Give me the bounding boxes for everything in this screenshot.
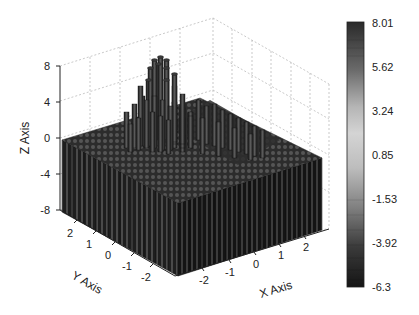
z-tick: -8: [40, 204, 50, 216]
colorbar: 8.01 5.62 3.24 0.85 -1.53 -3.92 -6.3: [347, 17, 397, 293]
z-tick: 0: [44, 132, 50, 144]
colorbar-tick: 5.62: [372, 61, 393, 73]
colorbar-tick: -1.53: [372, 193, 397, 205]
colorbar-tick: 0.85: [372, 149, 393, 161]
z-tick: 4: [44, 96, 50, 108]
y-tick: 0: [105, 249, 111, 261]
y-tick: 1: [86, 238, 92, 250]
colorbar-tick: -3.92: [372, 237, 397, 249]
colorbar-tick: 8.01: [372, 17, 393, 29]
z-axis-label: Z Axis: [18, 122, 32, 155]
colorbar-tick: -6.3: [372, 281, 391, 293]
z-axis: 8 4 0 -4 -8 Z Axis: [18, 60, 60, 216]
x-axis-label: X Axis: [258, 278, 294, 301]
x-tick: 2: [303, 241, 309, 253]
y-tick: -1: [122, 260, 132, 272]
x-tick: -2: [199, 274, 209, 286]
x-tick: 1: [278, 249, 284, 261]
y-tick: -2: [141, 271, 151, 283]
colorbar-tick: 3.24: [372, 105, 393, 117]
y-axis-label: Y Axis: [69, 268, 105, 297]
z-tick: -4: [40, 168, 50, 180]
y-tick: 2: [67, 227, 73, 239]
x-tick: 0: [253, 258, 259, 270]
z-tick: 8: [44, 60, 50, 72]
x-tick: -1: [225, 266, 235, 278]
bar3d-chart: 8 4 0 -4 -8 Z Axis 2 1 0 -1 -2 Y Axis: [0, 0, 419, 315]
